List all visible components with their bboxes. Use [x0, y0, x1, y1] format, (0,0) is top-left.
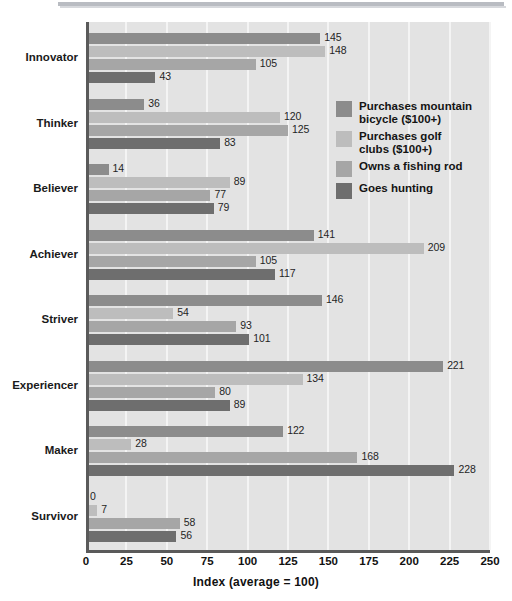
bar[interactable]: [86, 321, 236, 332]
bar[interactable]: [86, 190, 210, 201]
bar-value-label: 148: [329, 44, 346, 56]
bar-value-label: 89: [234, 398, 245, 410]
bar-value-label: 7: [101, 503, 107, 515]
bar[interactable]: [86, 518, 180, 529]
bar[interactable]: [86, 452, 357, 463]
bar-row: 93: [86, 321, 490, 332]
bar-value-label: 58: [184, 516, 195, 528]
bar-value-label: 209: [428, 241, 445, 253]
bar[interactable]: [86, 125, 288, 136]
x-axis-title: Index (average = 100): [0, 575, 512, 589]
legend-swatch: [336, 161, 352, 177]
bar-value-label: 120: [284, 110, 301, 122]
bar-group: 2211348089: [86, 361, 490, 411]
bar-group: 14514810543: [86, 33, 490, 83]
bar[interactable]: [86, 177, 230, 188]
bar-row: 105: [86, 59, 490, 70]
bar-row: 54: [86, 308, 490, 319]
bar[interactable]: [86, 59, 256, 70]
bar-value-label: 117: [279, 267, 295, 279]
bar-value-label: 141: [318, 228, 335, 240]
x-tick-label: 125: [278, 555, 297, 567]
bar[interactable]: [86, 361, 443, 372]
bar[interactable]: [86, 439, 131, 450]
bar-value-label: 146: [326, 293, 343, 305]
bar[interactable]: [86, 33, 320, 44]
bar[interactable]: [86, 256, 256, 267]
bar-value-label: 125: [292, 123, 309, 135]
category-label-maker: Maker: [0, 444, 78, 456]
bar-row: 89: [86, 400, 490, 411]
bar-value-label: 77: [214, 188, 225, 200]
legend-label: Purchases mountain bicycle ($100+): [359, 100, 472, 125]
bar[interactable]: [86, 269, 275, 280]
bar[interactable]: [86, 426, 283, 437]
bar-value-label: 79: [218, 201, 229, 213]
bar-value-label: 168: [361, 450, 378, 462]
bar-row: 134: [86, 374, 490, 385]
bar-value-label: 0: [90, 490, 96, 502]
bar-row: 221: [86, 361, 490, 372]
bar-row: 56: [86, 531, 490, 542]
bar[interactable]: [86, 112, 280, 123]
category-label-survivor: Survivor: [0, 510, 78, 522]
bar[interactable]: [86, 400, 230, 411]
category-label-experiencer: Experiencer: [0, 379, 78, 391]
bar[interactable]: [86, 203, 214, 214]
bar-row: 117: [86, 269, 490, 280]
bar-value-label: 14: [113, 162, 124, 174]
chart-page: 1451481054336120125831489777914120910511…: [0, 0, 512, 601]
bar-row: 148: [86, 46, 490, 57]
bar[interactable]: [86, 243, 424, 254]
bar[interactable]: [86, 138, 220, 149]
x-tick-label: 250: [480, 555, 499, 567]
bar[interactable]: [86, 334, 249, 345]
bar[interactable]: [86, 72, 155, 83]
category-label-striver: Striver: [0, 313, 78, 325]
bar-row: 168: [86, 452, 490, 463]
bar-value-label: 134: [307, 372, 324, 384]
bar-value-label: 43: [159, 70, 170, 82]
top-divider-rule-shadow: [60, 6, 506, 8]
x-tick-label: 225: [440, 555, 459, 567]
legend-item-goes-hunting[interactable]: Goes hunting: [336, 182, 506, 199]
x-tick-label: 200: [400, 555, 419, 567]
legend-swatch: [336, 183, 352, 199]
bar-value-label: 145: [324, 31, 341, 43]
bar-row: 209: [86, 243, 490, 254]
bar[interactable]: [86, 465, 454, 476]
bar[interactable]: [86, 99, 144, 110]
x-axis-line: [86, 550, 490, 553]
bar[interactable]: [86, 387, 215, 398]
bar-row: 58: [86, 518, 490, 529]
legend-item-golf-clubs[interactable]: Purchases golf clubs ($100+): [336, 130, 506, 155]
category-label-innovator: Innovator: [0, 51, 78, 63]
bar-row: 228: [86, 465, 490, 476]
bar-row: 145: [86, 33, 490, 44]
bar[interactable]: [86, 531, 176, 542]
category-label-thinker: Thinker: [0, 117, 78, 129]
bar-value-label: 221: [447, 359, 464, 371]
bar-group: 1465493101: [86, 295, 490, 345]
x-tick-label: 100: [238, 555, 257, 567]
bar[interactable]: [86, 374, 303, 385]
bar[interactable]: [86, 308, 173, 319]
bar-value-label: 105: [260, 254, 277, 266]
legend-item-mountain-bicycle[interactable]: Purchases mountain bicycle ($100+): [336, 100, 506, 125]
bar[interactable]: [86, 230, 314, 241]
bar-row: 122: [86, 426, 490, 437]
bar-value-label: 122: [287, 424, 304, 436]
bar[interactable]: [86, 164, 109, 175]
bar-row: 105: [86, 256, 490, 267]
x-tick-label: 150: [319, 555, 338, 567]
bar-value-label: 28: [135, 437, 146, 449]
bar-row: 43: [86, 72, 490, 83]
x-tick-label: 25: [120, 555, 133, 567]
legend-label: Goes hunting: [359, 182, 433, 195]
legend-swatch: [336, 131, 352, 147]
bar[interactable]: [86, 295, 322, 306]
legend-item-fishing-rod[interactable]: Owns a fishing rod: [336, 160, 506, 177]
y-axis-line: [86, 22, 89, 550]
bar[interactable]: [86, 46, 325, 57]
bar-group: 141209105117: [86, 230, 490, 280]
